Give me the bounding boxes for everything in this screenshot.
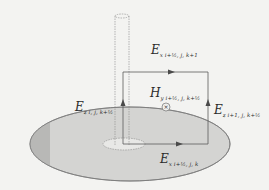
arrow-ez-right [206,99,211,106]
label-hy-center: Hy i+½, j, k+½ [150,84,200,100]
arrow-ez-left [121,99,126,106]
label-ex-bottom: Ex i+½, j, k [160,150,198,166]
svg-text:×: × [163,103,168,110]
disk-dark-region [0,100,50,190]
hfield-into-page-icon: × [162,103,170,111]
yee-cell-diagram: × [0,0,269,190]
arrow-ex-top [168,70,175,75]
label-ez-right: Ez i+1, j, k+½ [214,101,261,117]
label-ex-top: Ex i+½, j, k+1 [151,41,198,57]
label-ez-left: Ez i, j, k+½ [75,98,113,114]
